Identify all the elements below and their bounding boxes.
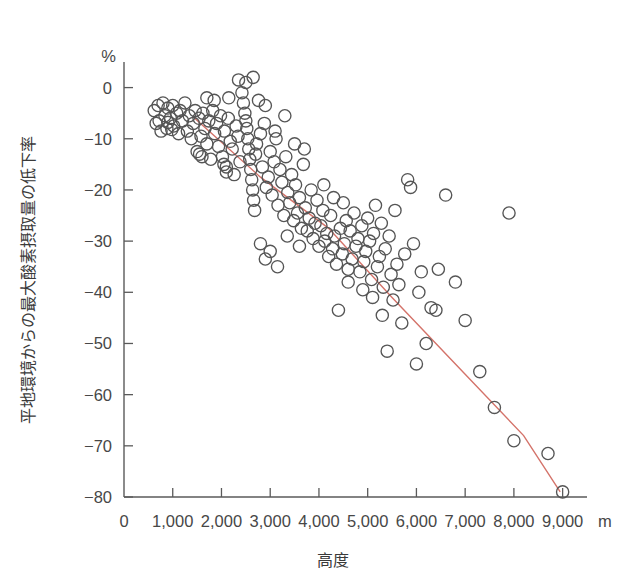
x-tick-label: 1,000 (152, 512, 193, 530)
x-tick-label: 7,000 (445, 512, 486, 530)
x-axis-unit-label: m (598, 512, 612, 530)
x-tick-label: 2,000 (201, 512, 242, 530)
scatter-chart-figure: 0−10−20−30−40−50−60−70−80 01,0002,0003,0… (0, 0, 636, 585)
y-tick-label: −40 (84, 283, 112, 301)
y-tick-label: −60 (84, 386, 112, 404)
x-tick-label: 3,000 (250, 512, 291, 530)
x-tick-label: 8,000 (493, 512, 534, 530)
y-axis-title: 平地環境からの最大酸素摂取量の低下率 (19, 136, 37, 424)
x-axis-title: 高度 (317, 552, 349, 569)
x-tick-label: 4,000 (298, 512, 339, 530)
y-tick-label: −80 (84, 488, 112, 506)
x-axis-tick-labels: 01,0002,0003,0004,0005,0006,0007,0008,00… (119, 512, 583, 530)
y-tick-label: −50 (84, 334, 112, 352)
x-tick-label: 6,000 (396, 512, 437, 530)
x-tick-label: 5,000 (347, 512, 388, 530)
y-tick-label: −10 (84, 130, 112, 148)
x-tick-label: 0 (119, 512, 128, 530)
y-axis-unit-label: % (101, 47, 116, 65)
chart-canvas: 0−10−20−30−40−50−60−70−80 01,0002,0003,0… (0, 0, 636, 585)
y-tick-label: −70 (84, 437, 112, 455)
y-axis-tick-labels: 0−10−20−30−40−50−60−70−80 (84, 79, 112, 506)
y-tick-label: −20 (84, 181, 112, 199)
y-tick-label: −30 (84, 232, 112, 250)
y-tick-label: 0 (103, 79, 112, 97)
x-tick-label: 9,000 (542, 512, 583, 530)
